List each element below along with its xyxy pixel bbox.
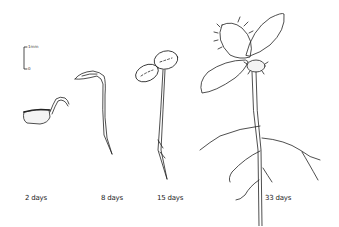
seedling-illustration [0, 0, 339, 226]
scale-bottom-label: 0 [28, 66, 31, 71]
scale-top-label: 1mm [28, 44, 38, 49]
stage-label-33-days: 33 days [265, 194, 291, 202]
seedling-15-days [133, 48, 180, 179]
stage-label-15-days: 15 days [157, 194, 183, 202]
scale-bar [24, 47, 27, 69]
seedling-8-days [75, 71, 112, 154]
seedling-33-days [200, 14, 320, 227]
stage-label-2-days: 2 days [25, 194, 47, 202]
seedling-2-days [23, 97, 69, 124]
stage-label-8-days: 8 days [101, 194, 123, 202]
